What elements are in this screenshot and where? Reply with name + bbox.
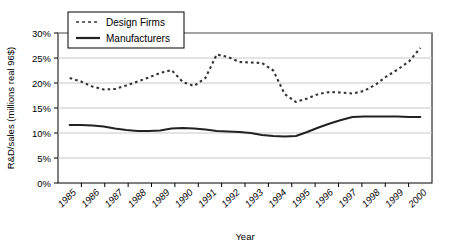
y-axis-tick-label: 15% xyxy=(32,103,52,114)
y-axis-tick-label: 20% xyxy=(32,78,52,89)
y-axis-tick-label: 30% xyxy=(32,28,52,39)
y-axis-tick-label: 10% xyxy=(32,128,52,139)
rd-sales-line-chart: 0%5%10%15%20%25%30% 19851986198719881989… xyxy=(0,0,450,248)
chart-legend: Design Firms Manufacturers xyxy=(68,12,184,48)
y-axis-tick-label: 0% xyxy=(37,178,51,189)
y-axis-title: R&D/sales (millions real 96$) xyxy=(5,47,16,169)
chart-container: 0%5%10%15%20%25%30% 19851986198719881989… xyxy=(0,0,450,248)
legend-label-manufacturers: Manufacturers xyxy=(106,33,170,44)
x-axis-title: Year xyxy=(235,231,254,242)
y-axis-tick-label: 5% xyxy=(37,153,51,164)
legend-label-design-firms: Design Firms xyxy=(106,17,165,28)
y-axis-tick-label: 25% xyxy=(32,53,52,64)
